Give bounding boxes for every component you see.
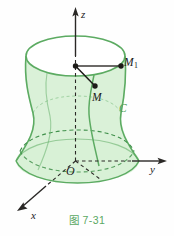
point-m1-letter: M bbox=[124, 56, 134, 68]
origin-label: O bbox=[66, 165, 75, 177]
x-axis-solid-segment bbox=[23, 186, 46, 206]
point-m1-dot bbox=[118, 63, 123, 68]
point-m-label: M bbox=[92, 92, 102, 104]
curve-c-label: C bbox=[119, 103, 127, 115]
point-m-dot bbox=[92, 83, 97, 88]
figure-caption: 图 7-31 bbox=[0, 212, 174, 227]
z-axis-label: z bbox=[81, 9, 85, 20]
hyperboloid-diagram bbox=[0, 0, 174, 236]
figure-container: z y x O M1 M C 图 7-31 bbox=[0, 0, 174, 236]
point-m1-subscript: 1 bbox=[134, 61, 138, 70]
point-m1-label: M1 bbox=[124, 57, 138, 70]
y-axis-label: y bbox=[150, 164, 155, 175]
axis-point-dot bbox=[73, 63, 78, 68]
